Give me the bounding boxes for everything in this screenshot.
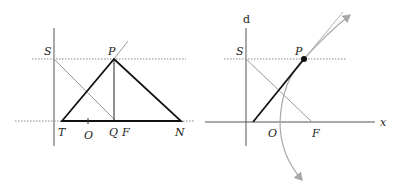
- tangent-extension: [304, 12, 343, 59]
- left-figure: S P T O Q F N: [15, 28, 195, 146]
- label-p: P: [107, 45, 116, 58]
- label-o: O: [268, 127, 277, 140]
- tangent-extension: [114, 41, 128, 59]
- label-t: T: [58, 126, 67, 139]
- label-d: d: [243, 13, 250, 26]
- label-o: O: [84, 129, 93, 142]
- triangle-tpn: [62, 59, 181, 121]
- label-f: F: [311, 127, 320, 140]
- label-s: S: [236, 45, 244, 58]
- label-s: S: [44, 45, 52, 58]
- diagram-canvas: S P T O Q F N d S P O F x: [0, 0, 395, 189]
- label-f: F: [121, 126, 130, 139]
- tangent-segment: [253, 59, 304, 122]
- label-q: Q: [109, 126, 118, 139]
- label-p: P: [294, 45, 303, 58]
- right-figure: d S P O F x: [205, 12, 387, 180]
- parabola-curve: [280, 59, 304, 180]
- parabola-upper-arm: [304, 15, 350, 59]
- label-x: x: [380, 116, 387, 129]
- label-n: N: [174, 126, 185, 139]
